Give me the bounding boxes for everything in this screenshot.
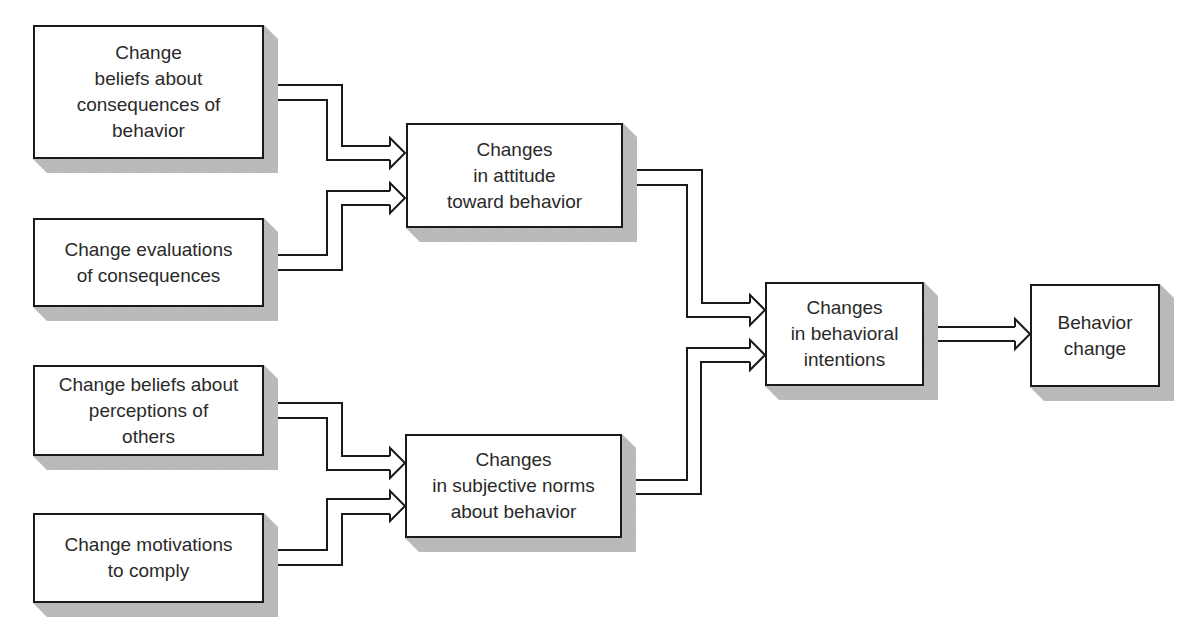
box-beliefs-perceptions: Change beliefs about perceptions of othe… (33, 365, 264, 456)
node-label: Changes in subjective norms about behavi… (432, 447, 595, 525)
box-subjective-norms-change: Changes in subjective norms about behavi… (405, 434, 622, 538)
arrow-norms-to-intentions (636, 340, 765, 494)
node-label: Changes in behavioral intentions (791, 295, 899, 373)
arrow-intentions-to-behavior-change (937, 319, 1030, 349)
node-label: Change beliefs about consequences of beh… (77, 40, 221, 144)
box-motivations-comply: Change motivations to comply (33, 513, 264, 603)
arrow-beliefs-consequences-to-attitude (277, 85, 405, 168)
arrow-evaluations-to-attitude (277, 183, 405, 270)
box-beliefs-consequences: Change beliefs about consequences of beh… (33, 25, 264, 159)
node-label: Behavior change (1058, 310, 1133, 362)
arrow-attitude-to-intentions (636, 170, 765, 325)
box-evaluations-consequences: Change evaluations of consequences (33, 218, 264, 307)
diagram-canvas: Change beliefs about consequences of beh… (0, 0, 1199, 632)
arrow-perceptions-to-norms (277, 403, 405, 478)
node-label: Change evaluations of consequences (65, 237, 233, 289)
box-attitude-change: Changes in attitude toward behavior (406, 123, 623, 228)
node-label: Change motivations to comply (65, 532, 233, 584)
box-behavior-change: Behavior change (1030, 284, 1160, 387)
box-behavioral-intentions-change: Changes in behavioral intentions (765, 282, 924, 386)
node-label: Change beliefs about perceptions of othe… (59, 372, 239, 450)
arrow-motivations-to-norms (277, 491, 405, 565)
node-label: Changes in attitude toward behavior (447, 137, 582, 215)
